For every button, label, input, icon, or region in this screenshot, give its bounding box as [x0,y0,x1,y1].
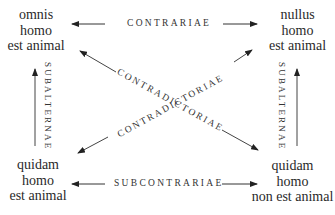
contradictoriae-arrow-top-left [80,51,116,72]
corner-line: est animal [0,38,72,54]
corner-line: non est animal [250,189,335,205]
relation-label-subalternae-right: SUBALTERNAE [277,62,287,150]
relation-label-contrariae: CONTRARIAE [127,18,211,28]
corner-line: homo [0,23,72,39]
corner-line: homo [260,23,335,39]
corner-line: homo [250,174,335,190]
contradictoriae-arrow-top-right [234,50,252,62]
proposition-particular-negative: quidam homo non est animal [250,158,335,205]
corner-line: est animal [260,38,335,54]
proposition-universal-negative: nullus homo est animal [260,7,335,54]
proposition-particular-affirmative: quidam homo est animal [0,157,76,204]
relation-label-subalternae-left: SUBALTERNAE [43,62,53,150]
corner-line: quidam [0,157,76,173]
corner-line: omnis [0,7,72,23]
relation-label-subcontrariae: SUBCONTRARIAE [114,178,224,188]
corner-line: nullus [260,7,335,23]
corner-line: quidam [250,158,335,174]
proposition-universal-affirmative: omnis homo est animal [0,7,72,54]
corner-line: est animal [0,188,76,204]
contradictoriae-arrow-bottom-left [78,137,108,153]
corner-line: homo [0,173,76,189]
contradictoriae-arrow-bottom-right [222,130,258,150]
